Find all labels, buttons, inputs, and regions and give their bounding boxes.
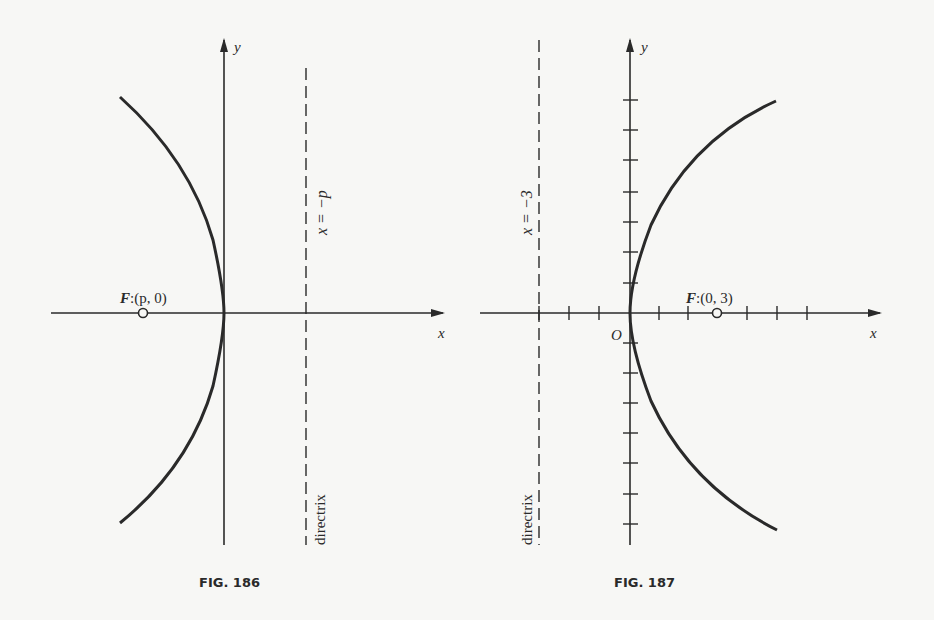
x-axis-label: x <box>437 325 445 341</box>
focus-label: F:(0, 3) <box>685 290 733 307</box>
directrix-label: directrix <box>519 494 535 545</box>
directrix-equation: x = −p <box>313 190 331 236</box>
focus-label: F:(p, 0) <box>119 290 167 307</box>
directrix-label: directrix <box>312 494 328 545</box>
focus-point <box>139 309 148 318</box>
focus-point <box>713 309 722 318</box>
y-axis-label: y <box>232 39 241 55</box>
figure-186: F:(p, 0) y x x = −p directrix FIG. 186 <box>51 39 445 590</box>
figure-caption: FIG. 186 <box>199 575 260 590</box>
figure-187: F:(0, 3) O y x x = −3 directrix FIG. 187 <box>480 39 880 590</box>
figure-canvas: F:(p, 0) y x x = −p directrix FIG. 186 <box>0 0 934 620</box>
figure-caption: FIG. 187 <box>614 575 675 590</box>
y-axis-label: y <box>639 39 648 55</box>
x-axis-label: x <box>869 325 877 341</box>
parabola-curve <box>630 101 777 530</box>
parabola-curve <box>120 97 224 523</box>
directrix-equation: x = −3 <box>518 190 535 236</box>
origin-label: O <box>611 327 622 343</box>
